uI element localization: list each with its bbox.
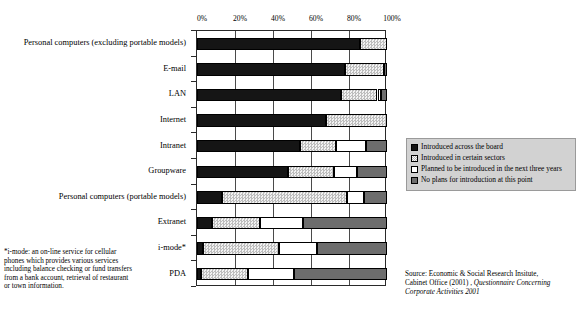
bar-segment bbox=[197, 191, 222, 204]
bar-segment bbox=[345, 63, 384, 76]
bar-row bbox=[197, 63, 385, 76]
category-label: Internet bbox=[160, 115, 186, 124]
legend-item-1[interactable]: Introduced in certain sectors bbox=[411, 153, 571, 163]
source-line-2: Cabinet Office (2001) , Questionnaire Co… bbox=[405, 279, 581, 288]
bar-row bbox=[197, 191, 385, 204]
x-tick-label-40: 40% bbox=[271, 14, 285, 23]
source-line-2-plain: Cabinet Office (2001) , bbox=[405, 279, 474, 287]
bar-segment bbox=[341, 89, 377, 102]
legend-item-3[interactable]: No plans for introduction at this point bbox=[411, 175, 571, 185]
bar-row bbox=[197, 89, 385, 102]
bar-segment bbox=[360, 38, 387, 51]
bar-row bbox=[197, 114, 385, 127]
bar-segment bbox=[384, 63, 387, 76]
bar-segment bbox=[336, 140, 366, 153]
legend-label: Planned to be introduced in the next thr… bbox=[421, 165, 562, 173]
bar-segment bbox=[366, 140, 387, 153]
bar-segment bbox=[197, 140, 300, 153]
bar-segment bbox=[326, 114, 387, 127]
legend-item-0[interactable]: Introduced across the board bbox=[411, 142, 571, 152]
legend-swatch-icon bbox=[411, 144, 418, 151]
bar-row bbox=[197, 217, 385, 230]
bar-segment bbox=[222, 191, 347, 204]
legend-item-2[interactable]: Planned to be introduced in the next thr… bbox=[411, 164, 571, 174]
category-label: E-mail bbox=[163, 64, 186, 73]
bar-row bbox=[197, 268, 385, 281]
bar-segment bbox=[197, 89, 341, 102]
bar-segment bbox=[279, 242, 317, 255]
bar-segment bbox=[364, 191, 387, 204]
bar-row bbox=[197, 166, 385, 179]
bar-segment bbox=[203, 242, 279, 255]
x-tick-label-80: 80% bbox=[347, 14, 361, 23]
category-label: Extranet bbox=[158, 217, 186, 226]
category-label: Personal computers (portable models) bbox=[59, 192, 186, 201]
bar-segment bbox=[197, 114, 326, 127]
legend-swatch-icon bbox=[411, 166, 418, 173]
bar-segment bbox=[347, 191, 364, 204]
legend: Introduced across the boardIntroduced in… bbox=[406, 138, 576, 191]
category-label: Groupware bbox=[148, 166, 186, 175]
category-row-6: Personal computers (portable models) bbox=[0, 184, 192, 210]
category-row-3: Internet bbox=[0, 107, 192, 133]
bar-segment bbox=[201, 268, 249, 281]
bar-row bbox=[197, 38, 385, 51]
category-row-0: Personal computers (excluding portable m… bbox=[0, 30, 192, 56]
bar-segment bbox=[197, 38, 360, 51]
bar-segment bbox=[248, 268, 294, 281]
bar-segment bbox=[381, 89, 387, 102]
bar-segment bbox=[300, 140, 336, 153]
bar-segment bbox=[294, 268, 387, 281]
bar-segment bbox=[317, 242, 387, 255]
y-tick-mark-10 bbox=[191, 286, 196, 287]
plot-area bbox=[196, 30, 386, 286]
source-line-3-italic: Corporate Activities 2001 bbox=[405, 288, 581, 297]
bar-segment bbox=[197, 63, 345, 76]
x-tick-label-100: 100% bbox=[383, 14, 401, 23]
bar-segment bbox=[197, 166, 288, 179]
bar-row bbox=[197, 242, 385, 255]
source-line-2-italic: Questionnaire Concerning bbox=[474, 279, 551, 287]
source-line-1: Source: Economic & Social Research Insit… bbox=[405, 270, 581, 279]
x-tick-label-60: 60% bbox=[309, 14, 323, 23]
category-row-7: Extranet bbox=[0, 209, 192, 235]
footnote: *i-mode: an on-line service for cellular… bbox=[4, 248, 132, 291]
x-axis-tick-labels: 0%20%40%60%80%100% bbox=[196, 14, 386, 28]
category-row-1: E-mail bbox=[0, 56, 192, 82]
category-row-4: Intranet bbox=[0, 132, 192, 158]
bar-segment bbox=[212, 217, 260, 230]
legend-swatch-icon bbox=[411, 155, 418, 162]
legend-label: No plans for introduction at this point bbox=[421, 176, 533, 184]
stacked-bars bbox=[197, 31, 385, 285]
chart-figure: 0%20%40%60%80%100% Personal computers (e… bbox=[0, 0, 581, 323]
x-tick-label-20: 20% bbox=[233, 14, 247, 23]
bar-segment bbox=[197, 217, 212, 230]
bar-segment bbox=[260, 217, 304, 230]
legend-label: Introduced across the board bbox=[421, 143, 503, 151]
bar-segment bbox=[357, 166, 387, 179]
legend-swatch-icon bbox=[411, 177, 418, 184]
category-label: i-mode* bbox=[158, 243, 186, 252]
bar-segment bbox=[334, 166, 357, 179]
category-label: Intranet bbox=[160, 141, 186, 150]
category-label: PDA bbox=[169, 269, 186, 278]
bar-segment bbox=[303, 217, 387, 230]
category-row-5: Groupware bbox=[0, 158, 192, 184]
source-note: Source: Economic & Social Research Insit… bbox=[405, 270, 581, 296]
category-label: LAN bbox=[169, 89, 186, 98]
x-tick-label-0: 0% bbox=[197, 14, 207, 23]
bar-segment bbox=[288, 166, 334, 179]
category-label: Personal computers (excluding portable m… bbox=[24, 38, 186, 47]
category-row-2: LAN bbox=[0, 81, 192, 107]
legend-label: Introduced in certain sectors bbox=[421, 154, 505, 162]
bar-row bbox=[197, 140, 385, 153]
